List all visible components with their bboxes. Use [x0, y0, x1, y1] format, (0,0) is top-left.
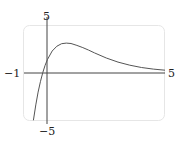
x-min-tick-label: −1	[4, 67, 20, 80]
y-min-tick-label: −5	[39, 125, 55, 138]
x-max-tick-label: 5	[168, 67, 175, 80]
function-curve	[33, 43, 165, 120]
function-plot: −1 5 5 −5	[0, 0, 183, 142]
y-max-tick-label: 5	[43, 10, 50, 23]
